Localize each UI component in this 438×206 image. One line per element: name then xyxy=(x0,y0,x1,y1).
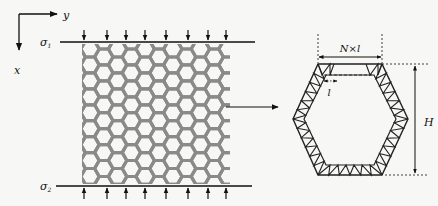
sigma-1-label: σ1 xyxy=(40,36,51,49)
top-load-arrows xyxy=(84,30,226,40)
bottom-load-arrows xyxy=(84,188,226,199)
sigma-2-label: σ2 xyxy=(40,180,52,193)
truss-hexagon-detail xyxy=(293,64,408,175)
honeycomb-lattice xyxy=(67,25,265,206)
segment-dimension: l xyxy=(324,75,373,98)
width-label: N×l xyxy=(339,43,360,54)
lattice-figure: y x σ1 σ2 N×l l H xyxy=(0,0,438,206)
height-label: H xyxy=(423,116,434,129)
segment-label: l xyxy=(327,87,330,98)
y-axis-label: y xyxy=(62,9,70,22)
x-axis-label: x xyxy=(14,64,21,77)
width-dimension: N×l xyxy=(318,34,382,63)
